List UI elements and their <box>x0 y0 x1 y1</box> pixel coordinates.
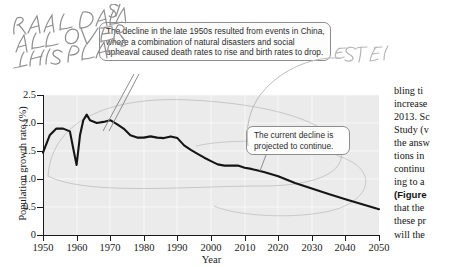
y-tick-1.0 <box>37 179 43 180</box>
x-tick-1980 <box>144 236 145 241</box>
text-line: ing to a <box>394 175 451 188</box>
figure-region: 2.5 2.0 1.5 1.0 0.5 0 1950 1960 1970 <box>0 0 392 267</box>
text-line-figure-reference: (Figure <box>394 188 451 201</box>
x-tick-2050 <box>379 236 380 241</box>
figure-reference-bold: (Figure <box>394 189 427 200</box>
text-line: the answ <box>394 136 451 149</box>
y-tick-0.5 <box>37 207 43 208</box>
text-line: will the <box>394 228 451 241</box>
text-line: that the <box>394 201 451 214</box>
x-tick-1950 <box>43 236 44 241</box>
estimate-leader-line <box>240 50 360 160</box>
x-tick-2040 <box>345 236 346 241</box>
text-line: tions in <box>394 149 451 162</box>
y-axis-line <box>43 95 44 236</box>
x-axis-title: Year <box>43 254 380 265</box>
x-tick-2010 <box>245 236 246 241</box>
x-tick-2020 <box>278 236 279 241</box>
y-axis-title: Population growth rate (%) <box>17 79 28 249</box>
y-tick-1.5 <box>37 151 43 152</box>
x-tick-2000 <box>211 236 212 241</box>
y-tick-2.0 <box>37 123 43 124</box>
x-tick-1960 <box>77 236 78 241</box>
text-line: increase <box>394 97 451 110</box>
y-tick-2.5 <box>37 95 43 96</box>
body-text-column: bling ti increase 2013. Sc Study (v the … <box>394 84 451 267</box>
text-line: continu <box>394 162 451 175</box>
x-tick-2030 <box>312 236 313 241</box>
x-tick-1970 <box>110 236 111 241</box>
text-line: bling ti <box>394 84 451 97</box>
text-line: these pr <box>394 214 451 227</box>
x-axis-label-2050: 2050 <box>359 242 399 253</box>
x-tick-1990 <box>177 236 178 241</box>
text-line: 2013. Sc <box>394 110 451 123</box>
text-line: Study (v <box>394 123 451 136</box>
figure-page: 2.5 2.0 1.5 1.0 0.5 0 1950 1960 1970 <box>0 0 451 267</box>
